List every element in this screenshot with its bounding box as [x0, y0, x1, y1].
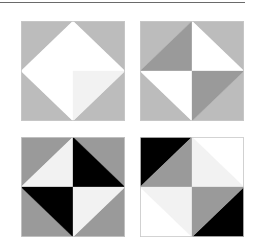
- tile-bottom-left: [21, 137, 125, 237]
- tile-graphic: [21, 137, 125, 237]
- tile-top-right: [140, 21, 244, 121]
- tile-bottom-right: [140, 137, 244, 237]
- tile-graphic: [21, 21, 125, 121]
- tile-graphic: [140, 21, 244, 121]
- tile-top-left: [21, 21, 125, 121]
- top-rule-line: [0, 2, 245, 3]
- tile-graphic: [140, 137, 244, 237]
